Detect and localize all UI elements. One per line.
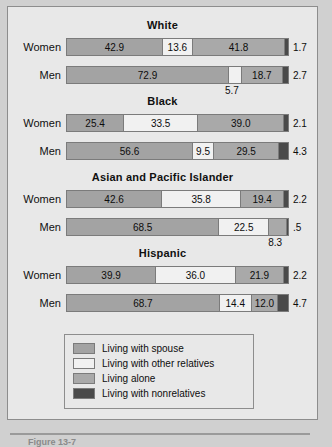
chart-groups: WhiteWomen42.913.641.81.7Men72.918.72.75… bbox=[8, 7, 317, 313]
segment-value-outside: .5 bbox=[289, 222, 301, 233]
row-label: Women bbox=[8, 269, 66, 281]
row-label: Women bbox=[8, 193, 66, 205]
segment-value-outside: 4.7 bbox=[289, 298, 307, 309]
bar-segment-spouse: 56.6 bbox=[67, 143, 192, 159]
group-title: White bbox=[8, 19, 317, 31]
segment-value-outside: 2.1 bbox=[289, 118, 307, 129]
chart-row: Men68.522.5.58.3 bbox=[8, 217, 317, 237]
legend-item: Living with spouse bbox=[73, 341, 245, 356]
row-label: Men bbox=[8, 69, 66, 81]
legend-swatch-alone bbox=[73, 373, 95, 384]
chart-row: Women39.936.021.92.2 bbox=[8, 265, 317, 285]
bar-segment-alone: 21.9 bbox=[235, 267, 283, 283]
legend-label: Living with spouse bbox=[102, 343, 184, 354]
stacked-bar: 68.714.412.0 bbox=[66, 294, 289, 312]
legend-label: Living with nonrelatives bbox=[102, 388, 205, 399]
chart-group: HispanicWomen39.936.021.92.2Men68.714.41… bbox=[8, 237, 317, 313]
chart-frame: WhiteWomen42.913.641.81.7Men72.918.72.75… bbox=[7, 6, 318, 420]
bar-segment-spouse: 68.7 bbox=[67, 295, 219, 311]
bar-segment-alone: 39.0 bbox=[197, 115, 283, 131]
bar-segment-nonrel bbox=[283, 115, 288, 131]
bar-segment-other bbox=[228, 67, 241, 83]
chart-row: Men72.918.72.75.7 bbox=[8, 65, 317, 85]
bar-segment-other: 13.6 bbox=[162, 39, 192, 55]
caption-text: Figure 13-7 bbox=[28, 437, 76, 447]
bar-segment-spouse: 68.5 bbox=[67, 219, 218, 235]
segment-value-outside: 2.7 bbox=[289, 70, 307, 81]
group-title: Hispanic bbox=[8, 247, 317, 259]
bar-segment-nonrel bbox=[284, 39, 288, 55]
segment-value-outside: 1.7 bbox=[289, 42, 307, 53]
bar-segment-alone bbox=[268, 219, 286, 235]
bar-segment-alone: 12.0 bbox=[251, 295, 278, 311]
row-label: Men bbox=[8, 145, 66, 157]
chart-row: Women42.913.641.81.7 bbox=[8, 37, 317, 57]
row-label: Men bbox=[8, 297, 66, 309]
segment-value-outside: 2.2 bbox=[289, 270, 307, 281]
legend-item: Living alone bbox=[73, 371, 245, 386]
bar-segment-alone: 19.4 bbox=[240, 191, 283, 207]
bar-segment-nonrel bbox=[283, 267, 288, 283]
chart-group: Asian and Pacific IslanderWomen42.635.81… bbox=[8, 161, 317, 237]
bar-segment-nonrel bbox=[283, 191, 288, 207]
stacked-bar: 39.936.021.9 bbox=[66, 266, 289, 284]
legend-label: Living alone bbox=[102, 373, 155, 384]
bar-segment-other: 14.4 bbox=[219, 295, 251, 311]
stacked-bar: 68.522.5 bbox=[66, 218, 289, 236]
stacked-bar: 25.433.539.0 bbox=[66, 114, 289, 132]
bar-segment-alone: 18.7 bbox=[241, 67, 282, 83]
segment-value-outside: 2.2 bbox=[289, 194, 307, 205]
figure-caption: Figure 13-7 bbox=[10, 433, 322, 447]
chart-row: Men68.714.412.04.7 bbox=[8, 293, 317, 313]
chart-row: Women42.635.819.42.2 bbox=[8, 189, 317, 209]
legend-swatch-other bbox=[73, 358, 95, 369]
chart-group: BlackWomen25.433.539.02.1Men56.69.529.54… bbox=[8, 85, 317, 161]
group-title: Asian and Pacific Islander bbox=[8, 171, 317, 183]
bar-segment-other: 22.5 bbox=[218, 219, 268, 235]
bar-segment-nonrel bbox=[282, 67, 288, 83]
chart-row: Women25.433.539.02.1 bbox=[8, 113, 317, 133]
bar-segment-spouse: 39.9 bbox=[67, 267, 155, 283]
bar-segment-other: 33.5 bbox=[123, 115, 197, 131]
chart-group: WhiteWomen42.913.641.81.7Men72.918.72.75… bbox=[8, 7, 317, 85]
bar-segment-spouse: 42.9 bbox=[67, 39, 162, 55]
bar-segment-spouse: 72.9 bbox=[67, 67, 228, 83]
stacked-bar: 56.69.529.5 bbox=[66, 142, 289, 160]
legend-item: Living with nonrelatives bbox=[73, 386, 245, 401]
legend-swatch-nonrel bbox=[73, 388, 95, 399]
legend-swatch-spouse bbox=[73, 343, 95, 354]
bar-segment-alone: 29.5 bbox=[213, 143, 278, 159]
bar-segment-other: 36.0 bbox=[155, 267, 235, 283]
segment-value-outside: 4.3 bbox=[289, 146, 307, 157]
stacked-bar: 42.635.819.4 bbox=[66, 190, 289, 208]
row-label: Women bbox=[8, 117, 66, 129]
chart-row: Men56.69.529.54.3 bbox=[8, 141, 317, 161]
bar-segment-spouse: 25.4 bbox=[67, 115, 123, 131]
legend-item: Living with other relatives bbox=[73, 356, 245, 371]
chart-legend: Living with spouseLiving with other rela… bbox=[64, 334, 254, 409]
bar-segment-other: 9.5 bbox=[192, 143, 213, 159]
stacked-bar: 72.918.7 bbox=[66, 66, 289, 84]
legend-label: Living with other relatives bbox=[102, 358, 214, 369]
row-label: Men bbox=[8, 221, 66, 233]
bar-segment-nonrel bbox=[286, 219, 287, 235]
figure-container: WhiteWomen42.913.641.81.7Men72.918.72.75… bbox=[0, 0, 332, 447]
stacked-bar: 42.913.641.8 bbox=[66, 38, 289, 56]
bar-segment-other: 35.8 bbox=[161, 191, 240, 207]
group-title: Black bbox=[8, 95, 317, 107]
bar-segment-alone: 41.8 bbox=[192, 39, 284, 55]
row-label: Women bbox=[8, 41, 66, 53]
bar-segment-nonrel bbox=[278, 143, 288, 159]
bar-segment-nonrel bbox=[277, 295, 287, 311]
bar-segment-spouse: 42.6 bbox=[67, 191, 161, 207]
caption-rule bbox=[10, 433, 310, 435]
